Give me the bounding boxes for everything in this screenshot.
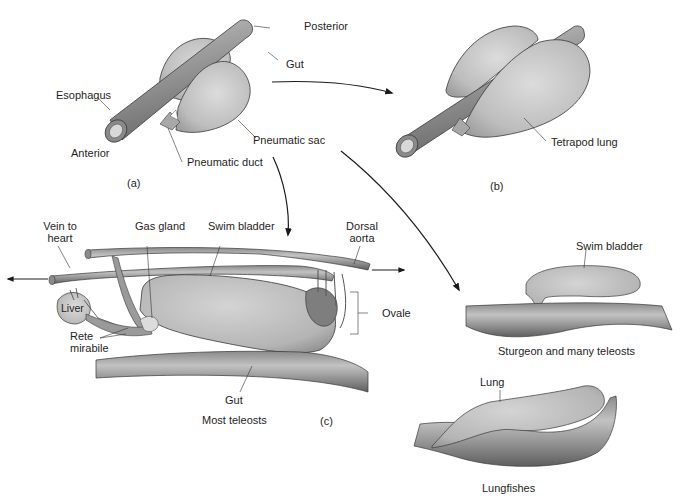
label-esophagus: Esophagus [56, 89, 111, 102]
sturgeon-panel-artwork [466, 250, 672, 337]
panel-a-artwork [97, 20, 278, 162]
panel-tag-a: (a) [127, 177, 140, 190]
lungfish-panel-artwork [414, 386, 616, 467]
label-gas-gland: Gas gland [135, 220, 185, 233]
label-liver: Liver [61, 302, 84, 315]
swim-bladder-evolution-diagram: Posterior Gut Esophagus Anterior Pneumat… [0, 0, 690, 504]
gas-gland-vessel [112, 256, 146, 330]
label-rete-mirabile-line2: mirabile [70, 342, 109, 355]
label-anterior: Anterior [71, 147, 110, 160]
arrow-to-tetrapod-lung [272, 81, 392, 93]
gut-c [96, 351, 368, 392]
caption-lungfishes: Lungfishes [482, 482, 535, 495]
ovale-bracket [350, 292, 358, 334]
label-swim-bladder-c: Swim bladder [208, 220, 275, 233]
caption-sturgeon: Sturgeon and many teleosts [498, 345, 635, 358]
label-pneumatic-sac: Pneumatic sac [253, 134, 325, 147]
swim-bladder-c [140, 275, 336, 353]
caption-most-teleosts: Most teleosts [202, 414, 267, 427]
label-gut-c: Gut [225, 394, 243, 407]
panel-tag-b: (b) [490, 180, 503, 193]
label-gut-a: Gut [286, 58, 304, 71]
label-posterior: Posterior [304, 20, 348, 33]
label-tetrapod-lung: Tetrapod lung [551, 136, 618, 149]
panel-tag-c: (c) [320, 415, 333, 428]
arrow-to-most-teleosts [273, 157, 288, 235]
sturgeon-gut [466, 303, 672, 337]
label-vein-to-heart-line2: heart [38, 232, 82, 245]
label-dorsal-aorta-line2: aorta [343, 232, 381, 245]
panel-c-artwork [49, 246, 370, 392]
label-pneumatic-duct: Pneumatic duct [187, 156, 263, 169]
label-ovale: Ovale [382, 307, 411, 320]
label-swim-bladder-sturgeon: Swim bladder [576, 240, 643, 253]
label-lung: Lung [480, 376, 504, 389]
